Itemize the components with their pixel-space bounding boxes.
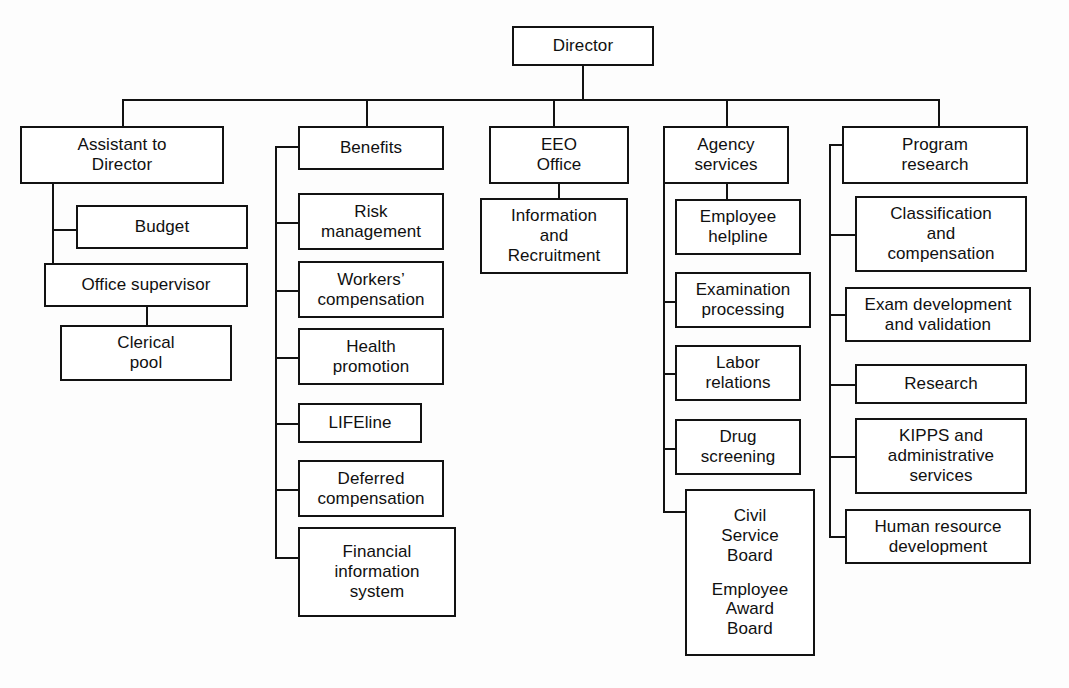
- connector-drop-benefits: [366, 99, 368, 126]
- node-director[interactable]: Director: [512, 26, 654, 66]
- node-budget[interactable]: Budget: [76, 205, 248, 249]
- node-label-civil-line1: Civil: [734, 506, 767, 526]
- node-workers-compensation[interactable]: Workers’ compensation: [298, 261, 444, 318]
- node-research[interactable]: Research: [855, 364, 1027, 404]
- node-label-line1: Workers’: [337, 270, 405, 290]
- node-label-line2: information: [334, 562, 419, 582]
- node-label-line3: Recruitment: [508, 246, 601, 266]
- node-label-line1: Financial: [343, 542, 412, 562]
- node-label-award-line1: Employee: [712, 580, 788, 600]
- node-label-line2: relations: [705, 373, 770, 393]
- node-label-line1: Assistant to: [77, 135, 166, 155]
- org-chart: Director Assistant to Director Budget Of…: [0, 0, 1069, 688]
- node-label: Office supervisor: [82, 275, 211, 295]
- connector-agency-stub-boards: [663, 511, 685, 513]
- node-label-line2: Director: [92, 155, 152, 175]
- connector-benefits-stub-financial: [275, 557, 300, 559]
- node-label-line2: Office: [537, 155, 582, 175]
- connector-drop-eeo: [553, 99, 555, 126]
- node-program-research[interactable]: Program research: [842, 126, 1028, 184]
- node-label-line2: and validation: [885, 315, 991, 335]
- node-label-civil-line3: Board: [727, 546, 773, 566]
- connector-program-stub-research: [829, 384, 855, 386]
- connector-program-stub-header: [829, 144, 844, 146]
- node-label-civil-line2: Service: [721, 526, 778, 546]
- node-label-line3: services: [909, 466, 972, 486]
- node-label-line1: Exam development: [864, 295, 1011, 315]
- connector-benefits-stub-health: [275, 357, 300, 359]
- node-label-line1: Drug: [719, 427, 756, 447]
- node-label-line1: KIPPS and: [899, 426, 983, 446]
- node-agency-services[interactable]: Agency services: [663, 126, 789, 184]
- node-label: Research: [904, 374, 978, 394]
- node-label-award-line3: Board: [727, 619, 773, 639]
- node-label-line1: Program: [902, 135, 968, 155]
- node-label-line1: EEO: [541, 135, 577, 155]
- node-label-line1: Labor: [716, 353, 760, 373]
- connector-agency-spine: [663, 184, 665, 513]
- node-eeo-office[interactable]: EEO Office: [489, 126, 629, 184]
- node-label-line1: Risk: [354, 202, 387, 222]
- node-risk-management[interactable]: Risk management: [298, 193, 444, 250]
- node-label-line2: processing: [701, 300, 784, 320]
- node-label: Budget: [135, 217, 189, 237]
- node-label-line1: Examination: [696, 280, 791, 300]
- node-label-line1: Classification: [890, 204, 992, 224]
- node-label-line3: compensation: [887, 244, 994, 264]
- connector-root-drop: [582, 66, 584, 100]
- connector-program-stub-kipps: [829, 456, 855, 458]
- connector-program-stub-classification: [829, 234, 855, 236]
- node-label-line2: helpline: [708, 227, 767, 247]
- node-label-award-line2: Award: [726, 599, 774, 619]
- node-label-line2: promotion: [333, 357, 410, 377]
- connector-benefits-stub-deferred: [275, 489, 300, 491]
- node-exam-development-and-validation[interactable]: Exam development and validation: [845, 287, 1031, 342]
- connector-office-supervisor-to-clerical-pool: [146, 307, 148, 325]
- connector-top-bus: [122, 99, 940, 101]
- node-benefits[interactable]: Benefits: [298, 126, 444, 170]
- node-label: LIFEline: [328, 413, 391, 433]
- connector-benefits-stub-workers: [275, 290, 300, 292]
- node-label: Director: [553, 36, 613, 56]
- node-label-line1: Human resource: [874, 517, 1001, 537]
- node-classification-and-compensation[interactable]: Classification and compensation: [855, 196, 1027, 272]
- node-clerical-pool[interactable]: Clerical pool: [60, 325, 232, 381]
- connector-benefits-stub-risk: [275, 222, 300, 224]
- node-employee-helpline[interactable]: Employee helpline: [675, 199, 801, 255]
- node-label-line2: management: [321, 222, 421, 242]
- node-health-promotion[interactable]: Health promotion: [298, 328, 444, 385]
- connector-drop-program: [938, 99, 940, 126]
- node-labor-relations[interactable]: Labor relations: [675, 345, 801, 401]
- node-label-line1: Employee: [700, 207, 776, 227]
- node-drug-screening[interactable]: Drug screening: [675, 419, 801, 475]
- node-human-resource-development[interactable]: Human resource development: [845, 509, 1031, 564]
- node-financial-information-system[interactable]: Financial information system: [298, 527, 456, 617]
- node-label-line2: screening: [701, 447, 776, 467]
- node-information-and-recruitment[interactable]: Information and Recruitment: [480, 198, 628, 274]
- node-examination-processing[interactable]: Examination processing: [675, 272, 811, 328]
- connector-benefits-stub-header: [275, 146, 300, 148]
- node-label-line1: Information: [511, 206, 597, 226]
- node-label-line2: services: [694, 155, 757, 175]
- connector-assistant-stub-budget: [52, 229, 76, 231]
- connector-program-spine: [829, 144, 831, 537]
- node-kipps-and-administrative-services[interactable]: KIPPS and administrative services: [855, 418, 1027, 494]
- node-label-line2: pool: [130, 353, 163, 373]
- node-label-line2: development: [889, 537, 987, 557]
- node-lifeline[interactable]: LIFEline: [298, 403, 422, 443]
- node-label-line1: Agency: [697, 135, 754, 155]
- node-label-line2: compensation: [317, 290, 424, 310]
- node-office-supervisor[interactable]: Office supervisor: [44, 263, 248, 307]
- node-deferred-compensation[interactable]: Deferred compensation: [298, 460, 444, 517]
- node-label-line2: administrative: [888, 446, 994, 466]
- connector-drop-assistant: [122, 99, 124, 126]
- node-label-line3: system: [350, 582, 404, 602]
- connector-benefits-stub-lifeline: [275, 423, 300, 425]
- node-label-line2: and: [927, 224, 956, 244]
- node-label-line1: Health: [346, 337, 396, 357]
- node-assistant-to-director[interactable]: Assistant to Director: [20, 126, 224, 184]
- node-label-line2: research: [902, 155, 969, 175]
- node-label-line1: Deferred: [338, 469, 405, 489]
- node-boards[interactable]: Civil Service Board Employee Award Board: [685, 489, 815, 656]
- node-label-line1: Clerical: [117, 333, 174, 353]
